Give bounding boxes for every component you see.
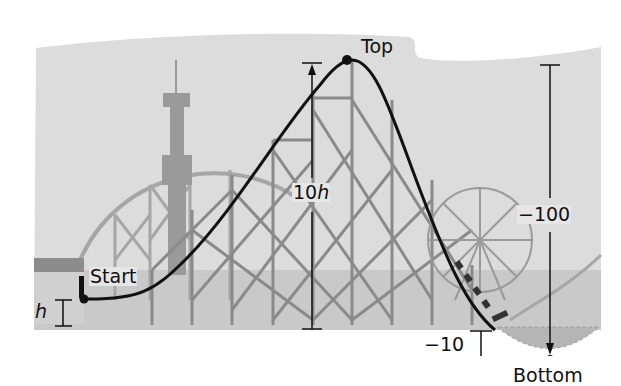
10h-label: 10h (292, 183, 330, 202)
10h-coef: 10 (293, 181, 317, 203)
start-label: Start (89, 267, 137, 286)
top-point (342, 55, 352, 65)
minus-100-label: −100 (517, 205, 571, 224)
bottom-point (545, 355, 555, 356)
h-label: h (35, 302, 47, 321)
top-label: Top (361, 37, 393, 56)
minus-10-label: −10 (424, 335, 464, 354)
start-point (80, 295, 89, 304)
bottom-label: Bottom (513, 366, 583, 385)
10h-var: h (317, 181, 329, 203)
arrow-down-icon (546, 343, 554, 355)
